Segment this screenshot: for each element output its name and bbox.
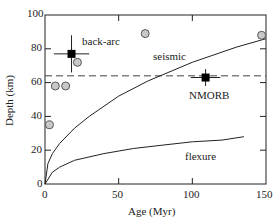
x-tick-150: 150 xyxy=(256,189,273,200)
back-arc-marker xyxy=(68,50,76,58)
x-tick-0: 0 xyxy=(42,189,48,200)
NMORB-marker xyxy=(202,74,210,82)
x-tick-50: 50 xyxy=(112,189,123,200)
y-tick-40: 40 xyxy=(31,110,42,121)
chart: 100 80 60 40 20 0 0 50 100 150 Age (Myr)… xyxy=(0,0,280,221)
data-point-circle xyxy=(51,82,59,90)
plot-frame xyxy=(45,15,266,184)
y-tick-60: 60 xyxy=(31,76,42,87)
y-tick-20: 20 xyxy=(31,144,42,155)
y-tick-100: 100 xyxy=(27,8,44,19)
backarc-label: back-arc xyxy=(82,36,120,47)
data-point-circle xyxy=(45,121,53,129)
data-point-circle xyxy=(141,30,149,38)
x-axis-label: Age (Myr) xyxy=(128,206,175,217)
data-point-circle xyxy=(258,31,266,39)
nmorb-label: NMORB xyxy=(189,90,229,101)
y-tick-80: 80 xyxy=(31,42,42,53)
data-point-circle xyxy=(62,82,70,90)
flexure-label: flexure xyxy=(185,151,216,162)
y-axis-label: Depth (km) xyxy=(4,75,15,126)
data-point-circle xyxy=(73,58,81,66)
seismic-label: seismic xyxy=(153,51,186,62)
x-tick-100: 100 xyxy=(183,189,200,200)
